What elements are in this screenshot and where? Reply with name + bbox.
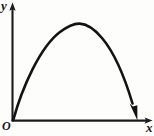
parabola-figure: y x O: [0, 0, 154, 136]
x-axis-label: x: [146, 121, 153, 134]
origin-label: O: [2, 120, 11, 132]
y-axis-label: y: [1, 0, 7, 12]
parabola-curve: [13, 24, 132, 121]
figure-canvas: [0, 0, 154, 136]
curve-end-arrowhead-icon: [130, 103, 138, 120]
